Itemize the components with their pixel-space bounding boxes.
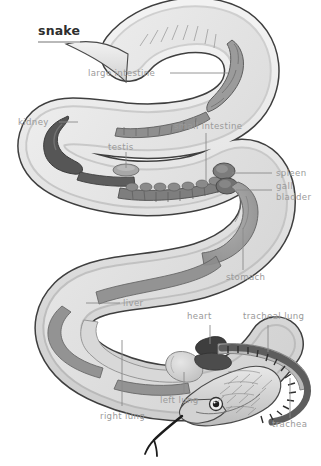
- label-kidney: kidney: [18, 117, 49, 128]
- label-small-intestine: small intestine: [174, 121, 242, 132]
- label-large-intestine: large intestine: [88, 68, 155, 79]
- figure-title-rule: [38, 41, 80, 43]
- label-testis: testis: [108, 142, 133, 153]
- label-gall-bladder: gall bladder: [276, 181, 321, 202]
- spleen-organ: [213, 163, 235, 179]
- label-spleen: spleen: [276, 168, 306, 179]
- snake-body-outline: [45, 25, 276, 393]
- label-heart: heart: [187, 311, 212, 322]
- label-right-lung: right lung: [100, 411, 145, 422]
- label-trachea: trachea: [272, 419, 307, 430]
- figure-title: snake: [38, 25, 80, 38]
- snake-anatomy-figure: snake large intestine kidney small intes…: [0, 0, 321, 466]
- label-tracheal-lung: tracheal lung: [243, 311, 304, 322]
- label-stomach: stomach: [226, 272, 265, 283]
- label-left-lung: left lung: [160, 395, 199, 406]
- figure-title-block: snake: [38, 25, 80, 43]
- label-liver: liver: [123, 298, 143, 309]
- snake-tongue: [145, 416, 182, 456]
